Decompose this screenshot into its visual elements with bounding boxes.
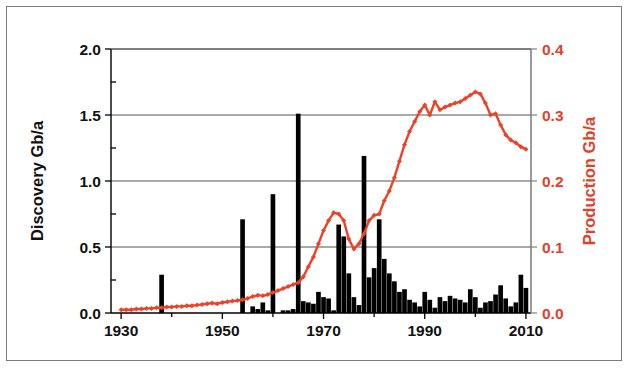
discovery-bar	[463, 302, 468, 313]
discovery-bar	[503, 298, 508, 313]
production-marker	[174, 304, 179, 309]
y-ticklabel-right: 0.4	[542, 41, 564, 58]
discovery-bar	[498, 285, 503, 313]
production-marker	[139, 307, 144, 312]
discovery-bar	[443, 301, 448, 313]
figure-frame: 0.00.51.01.52.00.00.10.20.30.41930195019…	[6, 6, 622, 361]
discovery-bar	[488, 301, 493, 313]
production-marker	[260, 293, 265, 298]
discovery-bar	[438, 297, 443, 313]
discovery-bar	[341, 236, 346, 313]
discovery-bar	[321, 297, 326, 313]
discovery-bar	[301, 301, 306, 313]
discovery-bar	[519, 275, 524, 313]
discovery-bar	[357, 305, 362, 313]
discovery-bar	[493, 295, 498, 313]
production-marker	[154, 305, 159, 310]
discovery-bar	[392, 281, 397, 313]
chart-figure: 0.00.51.01.52.00.00.10.20.30.41930195019…	[0, 0, 630, 369]
discovery-bar	[306, 302, 311, 313]
x-ticklabel: 2010	[509, 322, 543, 339]
y-axis-title-right: Production Gb/a	[580, 116, 598, 245]
production-marker	[189, 303, 194, 308]
discovery-bar	[326, 298, 331, 313]
discovery-bar	[453, 298, 458, 313]
y-ticklabel-left: 0.0	[79, 305, 101, 322]
discovery-bar	[508, 306, 513, 313]
discovery-bar	[448, 296, 453, 313]
production-marker	[164, 305, 169, 310]
y-ticklabel-left: 0.5	[79, 239, 101, 256]
gridlines	[111, 49, 531, 247]
discovery-bar	[347, 273, 352, 313]
discovery-bar	[412, 302, 417, 313]
discovery-bar	[483, 302, 488, 313]
discovery-bar	[367, 277, 372, 313]
production-marker	[230, 299, 235, 304]
discovery-bar	[260, 302, 265, 313]
production-marker	[200, 302, 205, 307]
x-ticklabel: 1990	[407, 322, 441, 339]
y-ticklabel-left: 1.5	[79, 107, 101, 124]
discovery-bar	[387, 273, 392, 313]
production-line	[119, 89, 529, 312]
discovery-bar	[397, 292, 402, 313]
discovery-bar	[417, 306, 422, 313]
production-marker	[129, 307, 134, 312]
discovery-bar	[513, 302, 518, 313]
discovery-bar	[352, 297, 357, 313]
discovery-bar	[468, 289, 473, 313]
discovery-bar	[402, 289, 407, 313]
production-marker	[205, 301, 210, 306]
production-marker	[184, 303, 189, 308]
y-ticklabel-right: 0.1	[542, 239, 564, 256]
y-ticklabel-right: 0.3	[542, 107, 564, 124]
y-ticklabel-right: 0.0	[542, 305, 564, 322]
discovery-bar	[382, 259, 387, 313]
y-ticklabel-left: 1.0	[79, 173, 101, 190]
production-marker	[210, 301, 215, 306]
x-ticklabel: 1970	[306, 322, 340, 339]
x-ticklabel: 1950	[205, 322, 239, 339]
production-marker	[235, 298, 240, 303]
discovery-bar	[407, 300, 412, 313]
production-marker	[144, 306, 149, 311]
y-ticklabel-right: 0.2	[542, 173, 564, 190]
axis-ticks	[105, 49, 537, 319]
discovery-bar	[478, 308, 483, 313]
discovery-bar	[271, 194, 276, 313]
production-polyline	[121, 92, 526, 310]
production-marker	[220, 300, 225, 305]
production-marker	[179, 304, 184, 309]
discovery-bar	[336, 225, 341, 313]
axis-tick-labels: 0.00.51.01.52.00.00.10.20.30.41930195019…	[79, 41, 563, 340]
discovery-production-chart: 0.00.51.01.52.00.00.10.20.30.41930195019…	[7, 7, 619, 358]
production-marker	[215, 301, 220, 306]
discovery-bar	[427, 300, 432, 313]
discovery-bar	[524, 288, 529, 313]
discovery-bar	[433, 308, 438, 313]
production-marker	[149, 306, 154, 311]
discovery-bar	[311, 304, 316, 313]
production-marker	[169, 305, 174, 310]
production-marker	[119, 307, 124, 312]
discovery-bar	[250, 306, 255, 313]
production-marker	[255, 293, 260, 298]
y-ticklabel-left: 2.0	[79, 41, 101, 58]
x-ticklabel: 1930	[104, 322, 138, 339]
discovery-bar	[372, 268, 377, 313]
discovery-bar	[422, 292, 427, 313]
production-marker	[124, 307, 129, 312]
discovery-bar	[316, 292, 321, 313]
production-marker	[134, 307, 139, 312]
y-axis-title-left: Discovery Gb/a	[28, 120, 46, 241]
discovery-bar	[458, 300, 463, 313]
production-marker	[225, 299, 230, 304]
discovery-bars	[159, 114, 528, 313]
discovery-bar	[473, 297, 478, 313]
production-marker	[195, 303, 200, 308]
discovery-bar	[377, 219, 382, 313]
